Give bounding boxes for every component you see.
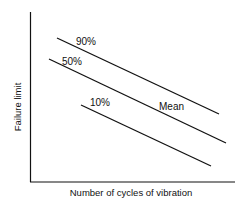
- y-axis-label: Failure limit: [12, 82, 23, 131]
- label-90-percent: 90%: [76, 36, 96, 47]
- line-50-percent: [49, 59, 226, 143]
- x-axis-label: Number of cycles of vibration: [70, 187, 193, 198]
- chart: 90% 50% 10% Mean Number of cycles of vib…: [0, 0, 245, 203]
- label-50-percent: 50%: [62, 56, 82, 67]
- label-10-percent: 10%: [90, 97, 110, 108]
- line-90-percent: [57, 38, 219, 114]
- line-10-percent: [81, 105, 211, 166]
- label-mean: Mean: [159, 101, 184, 112]
